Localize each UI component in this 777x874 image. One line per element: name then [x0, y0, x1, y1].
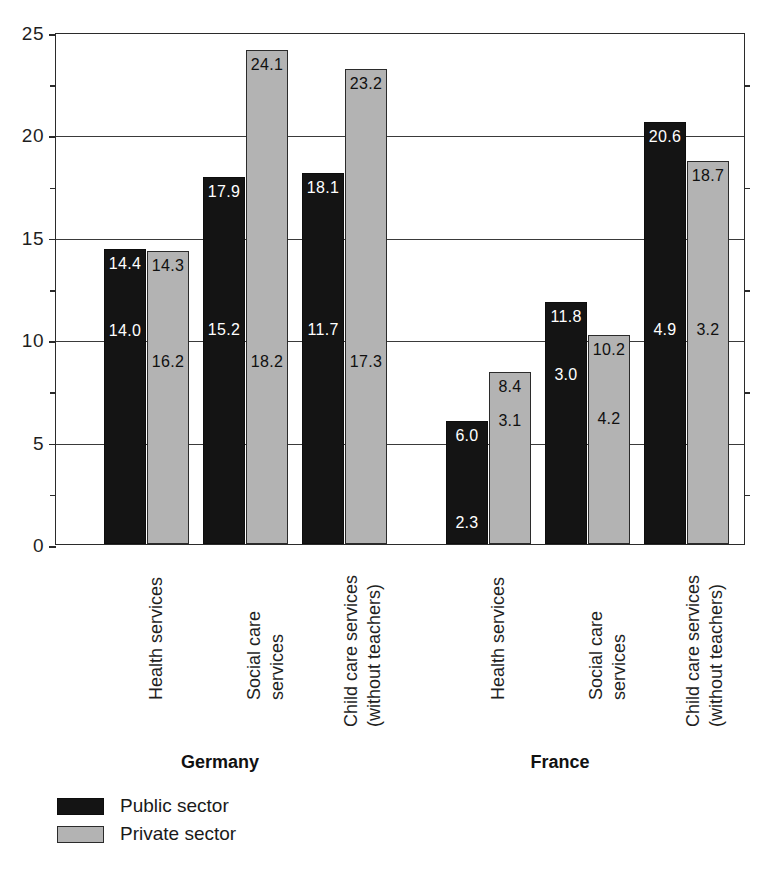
ytick-major-15 [49, 239, 56, 241]
ytick-major-5 [49, 444, 56, 446]
bar-secondary-label: 4.9 [645, 321, 685, 339]
bar-france-health-public[interactable]: 6.0 2.3 [446, 421, 488, 544]
legend-swatch-public-icon [57, 798, 104, 815]
ytick-minor-right-2_5 [744, 495, 750, 497]
bar-value-label: 24.1 [247, 56, 287, 74]
ytick-label-15: 15 [22, 228, 44, 250]
ytick-minor-right-12_5 [744, 290, 750, 292]
bar-france-social-public[interactable]: 11.8 3.0 [545, 302, 587, 544]
ytick-minor-right-22_5 [744, 85, 750, 87]
bar-secondary-label: 18.2 [247, 353, 287, 371]
bar-value-label: 14.4 [105, 255, 145, 273]
ytick-label-20: 20 [22, 125, 44, 147]
legend-swatch-private-icon [57, 826, 104, 843]
gridline-20 [56, 136, 744, 137]
ytick-minor-2_5 [50, 495, 56, 497]
group-label-germany: Germany [150, 752, 290, 773]
group-label-france: France [490, 752, 630, 773]
bar-chart-figure: 25 20 15 10 5 0 14.4 14.0 14.3 16.2 [0, 0, 777, 874]
bar-value-label: 17.9 [204, 183, 244, 201]
bar-secondary-label: 3.2 [688, 321, 728, 339]
ytick-major-20 [49, 136, 56, 138]
legend-label-public-sector: Public sector [120, 795, 229, 817]
bar-secondary-label: 2.3 [447, 514, 487, 532]
xaxis-label-france-health: Health services [487, 577, 510, 700]
legend-label-private-sector: Private sector [120, 823, 236, 845]
xaxis-label-france-social-line1: Social care [585, 611, 608, 700]
bar-value-label: 18.1 [303, 179, 343, 197]
bar-value-label: 11.8 [546, 308, 586, 326]
bar-secondary-label: 3.1 [490, 412, 530, 430]
ytick-label-10: 10 [22, 330, 44, 352]
bar-value-label: 10.2 [589, 341, 629, 359]
bar-germany-childcare-private[interactable]: 23.2 17.3 [345, 69, 387, 544]
legend-item-private-sector[interactable]: Private sector [57, 820, 317, 848]
xaxis-label-germany-social-line2: services [266, 634, 289, 700]
xaxis-label-france-childcare-line2: (without teachers) [705, 584, 728, 727]
ytick-major-10 [49, 341, 56, 343]
legend-item-public-sector[interactable]: Public sector [57, 792, 317, 820]
bar-germany-social-private[interactable]: 24.1 18.2 [246, 50, 288, 544]
bar-france-childcare-public[interactable]: 20.6 4.9 [644, 122, 686, 544]
bar-germany-social-public[interactable]: 17.9 15.2 [203, 177, 245, 544]
xaxis-label-germany-health: Health services [145, 577, 168, 700]
xaxis-label-germany-childcare-line1: Child care services [340, 575, 363, 727]
xaxis-label-germany-social-line1: Social care [243, 611, 266, 700]
bar-value-label: 8.4 [490, 378, 530, 396]
bar-value-label: 14.3 [148, 257, 188, 275]
ytick-minor-22_5 [50, 85, 56, 87]
bar-secondary-label: 4.2 [589, 410, 629, 428]
bar-secondary-label: 3.0 [546, 366, 586, 384]
bar-germany-health-private[interactable]: 14.3 16.2 [147, 251, 189, 544]
bar-germany-childcare-public[interactable]: 18.1 11.7 [302, 173, 344, 544]
bar-value-label: 18.7 [688, 167, 728, 185]
bar-value-label: 23.2 [346, 75, 386, 93]
ytick-minor-7_5 [50, 392, 56, 394]
ytick-major-25 [49, 34, 56, 36]
ytick-minor-right-7_5 [744, 392, 750, 394]
ytick-label-25: 25 [22, 23, 44, 45]
bar-germany-health-public[interactable]: 14.4 14.0 [104, 249, 146, 544]
ytick-minor-12_5 [50, 290, 56, 292]
plot-area: 25 20 15 10 5 0 14.4 14.0 14.3 16.2 [55, 33, 745, 545]
ytick-minor-17_5 [50, 188, 56, 190]
bar-secondary-label: 15.2 [204, 321, 244, 339]
bar-value-label: 20.6 [645, 128, 685, 146]
bar-france-childcare-private[interactable]: 18.7 3.2 [687, 161, 729, 544]
xaxis-label-germany-childcare-line2: (without teachers) [363, 584, 386, 727]
bar-secondary-label: 14.0 [105, 322, 145, 340]
ytick-major-0 [49, 546, 56, 548]
xaxis-label-france-social-line2: services [608, 634, 631, 700]
ytick-label-5: 5 [33, 433, 44, 455]
ytick-minor-right-17_5 [744, 188, 750, 190]
bar-secondary-label: 17.3 [346, 353, 386, 371]
bar-france-health-private[interactable]: 8.4 3.1 [489, 372, 531, 544]
bar-secondary-label: 16.2 [148, 353, 188, 371]
xaxis-label-france-childcare-line1: Child care services [682, 575, 705, 727]
gridline-15 [56, 239, 744, 240]
bar-value-label: 6.0 [447, 427, 487, 445]
bar-france-social-private[interactable]: 10.2 4.2 [588, 335, 630, 544]
legend: Public sector Private sector [57, 792, 317, 848]
bar-secondary-label: 11.7 [303, 321, 343, 339]
ytick-label-0: 0 [33, 535, 44, 557]
